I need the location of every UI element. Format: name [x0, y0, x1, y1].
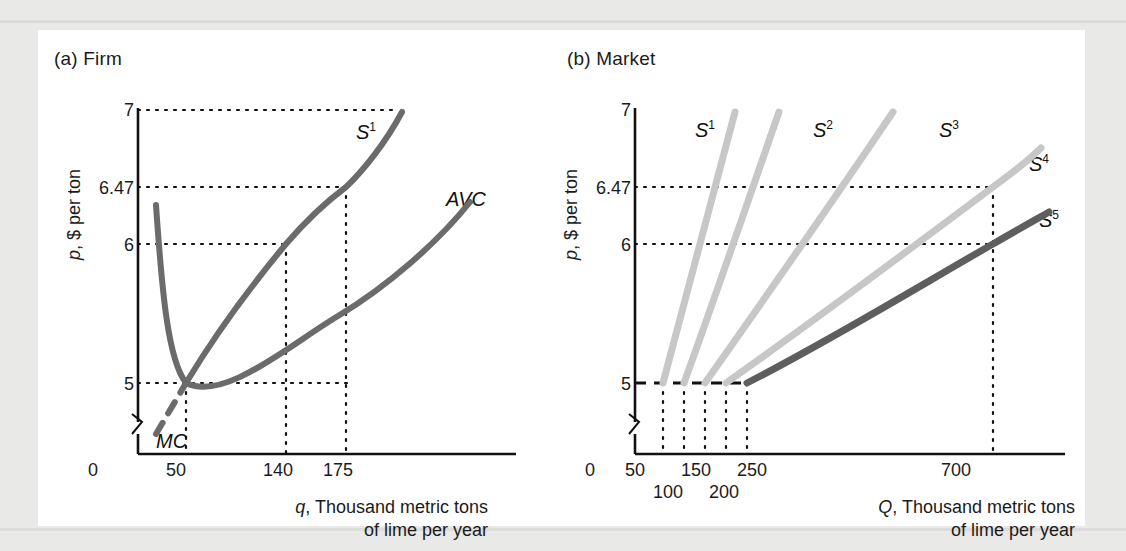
s5-curve-market: [747, 212, 1049, 383]
panel-a-axis-break-icon: [132, 414, 142, 434]
panel-b-plot: [535, 30, 1085, 526]
panel-a-plot: [38, 30, 553, 526]
panel-b-axis-break-icon: [629, 414, 639, 434]
s4-curve-market: [726, 148, 1041, 383]
scan-edge-top: [0, 20, 1126, 23]
panel-market: (b) Market p, $ per ton 7 6.47 6 5 0 50 …: [535, 30, 1085, 526]
figure-canvas: (a) Firm p, $ per ton 7 6.47 6 5 0 50 14…: [38, 30, 1085, 526]
panel-firm: (a) Firm p, $ per ton 7 6.47 6 5 0 50 14…: [38, 30, 553, 526]
mc-dashed-segment: [156, 383, 186, 434]
